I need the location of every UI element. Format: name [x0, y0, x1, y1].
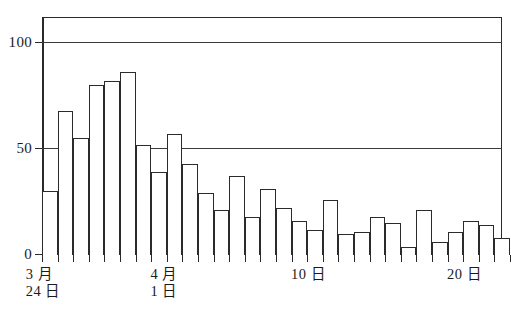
x-axis-tick — [323, 255, 324, 262]
x-axis-tick — [104, 255, 105, 262]
x-axis-label-line1: 3 月 — [26, 266, 52, 282]
x-axis-tick — [42, 255, 43, 262]
x-axis-label: 20 日 — [447, 266, 497, 283]
y-axis-tick-100 — [35, 42, 42, 43]
x-axis-tick — [432, 255, 433, 262]
x-axis-tick — [307, 255, 308, 262]
x-axis-tick — [245, 255, 246, 262]
bar — [73, 138, 89, 255]
bar — [260, 189, 276, 255]
bar — [338, 234, 354, 255]
x-axis-tick — [354, 255, 355, 262]
bar — [245, 217, 261, 255]
bar — [307, 230, 323, 256]
bar — [276, 208, 292, 255]
x-axis-tick — [136, 255, 137, 262]
x-axis-tick — [167, 255, 168, 262]
x-axis-tick — [260, 255, 261, 262]
y-axis-tick-0 — [35, 254, 42, 255]
bar — [370, 217, 386, 255]
bar — [416, 210, 432, 255]
bar — [479, 225, 495, 255]
x-axis-tick — [416, 255, 417, 262]
y-axis-label-0: 0 — [0, 247, 32, 262]
x-axis-tick — [229, 255, 230, 262]
bar — [198, 193, 214, 255]
x-axis-tick — [494, 255, 495, 262]
x-axis-tick — [73, 255, 74, 262]
x-axis-label-line1: 20 日 — [447, 266, 481, 282]
bar — [229, 176, 245, 255]
bar — [401, 247, 417, 256]
x-axis-tick — [338, 255, 339, 262]
x-axis-tick — [198, 255, 199, 262]
y-axis-label-50: 50 — [0, 141, 32, 156]
y-axis-label-100: 100 — [0, 35, 32, 50]
x-axis-tick — [292, 255, 293, 262]
bar — [494, 238, 510, 255]
bar — [448, 232, 464, 255]
x-axis-tick — [58, 255, 59, 262]
bar — [182, 164, 198, 255]
x-axis-tick — [479, 255, 480, 262]
x-axis-label: 3 月24 日 — [26, 266, 76, 300]
bar — [354, 232, 370, 255]
bars-layer — [42, 17, 502, 255]
x-axis-tick — [214, 255, 215, 262]
bar — [136, 145, 152, 256]
bar — [323, 200, 339, 255]
bar — [432, 242, 448, 255]
x-axis-tick — [276, 255, 277, 262]
bar — [42, 191, 58, 255]
y-axis-tick-50 — [35, 148, 42, 149]
x-axis-label: 10 日 — [291, 266, 341, 283]
bar — [167, 134, 183, 255]
x-axis-tick — [120, 255, 121, 262]
x-axis-label: 4 月1 日 — [151, 266, 201, 300]
bar — [104, 81, 120, 255]
x-axis-tick — [370, 255, 371, 262]
x-axis-tick — [385, 255, 386, 262]
x-axis-label-line2: 24 日 — [26, 283, 76, 300]
x-axis-label-line1: 4 月 — [151, 266, 177, 282]
x-axis-tick — [151, 255, 152, 262]
x-axis-tick — [182, 255, 183, 262]
x-axis-tick — [463, 255, 464, 262]
x-axis-label-line2: 1 日 — [151, 283, 201, 300]
bar — [385, 223, 401, 255]
x-axis-tick — [448, 255, 449, 262]
bar — [58, 111, 74, 256]
bar — [463, 221, 479, 255]
bar — [214, 210, 230, 255]
bar — [292, 221, 308, 255]
x-axis-tick — [401, 255, 402, 262]
bar — [120, 72, 136, 255]
bar — [151, 172, 167, 255]
x-axis-tick — [89, 255, 90, 262]
bar — [89, 85, 105, 255]
x-axis-label-line1: 10 日 — [291, 266, 325, 282]
